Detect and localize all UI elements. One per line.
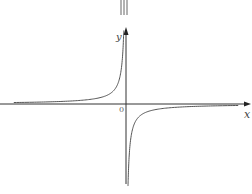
x-axis-arrow-icon xyxy=(244,102,251,107)
top-debris-lines xyxy=(121,0,127,15)
y-axis-label: y xyxy=(115,31,122,42)
x-axis-label: x xyxy=(244,108,251,121)
hyperbola-chart: x y 0 xyxy=(0,0,252,194)
origin-label: 0 xyxy=(119,105,124,114)
curve-branch-quadrant-II xyxy=(14,30,124,102)
curve-branch-quadrant-IV xyxy=(128,105,238,186)
y-axis-arrow-icon xyxy=(124,27,129,35)
